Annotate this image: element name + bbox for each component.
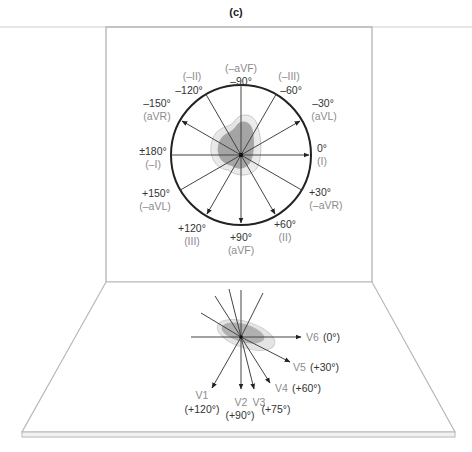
lead-v2-name: V2	[235, 396, 248, 408]
lead-v6-name: V6	[306, 331, 319, 343]
lead-label-m60: (–III)	[278, 70, 300, 82]
angle-label-p30: +30°	[309, 186, 331, 198]
angle-label-p120: +120°	[178, 222, 206, 234]
lead-v4-name: V4	[275, 382, 288, 394]
lead-label-m30: (aVL)	[311, 110, 337, 122]
figure-canvas: (–aVF) –90° (–III) –60° (–II) –120° –30°…	[0, 0, 472, 452]
lead-v4-angle: (+60°)	[292, 382, 321, 394]
angle-label-m120: –120°	[175, 84, 203, 96]
lead-v1-angle: (+120°)	[185, 403, 220, 415]
lead-v5-name: V5	[293, 361, 306, 373]
lead-label-m150: (aVR)	[143, 110, 170, 122]
angle-label-p90: +90°	[230, 231, 252, 243]
lead-v5-angle: (+30°)	[310, 361, 339, 373]
lead-label-m120: (–II)	[183, 70, 202, 82]
angle-label-m30: –30°	[312, 97, 334, 109]
lead-v2-angle: (+90°)	[225, 409, 254, 421]
angle-label-p150: +150°	[142, 187, 170, 199]
angle-label-p0: 0°	[317, 142, 327, 154]
angle-label-m150: –150°	[143, 97, 171, 109]
angle-label-p60: +60°	[274, 218, 296, 230]
angle-label-m60: –60°	[280, 84, 302, 96]
lead-label-p120: (III)	[184, 235, 200, 247]
lead-label-p150: (–aVL)	[139, 200, 171, 212]
origin-dot	[239, 153, 243, 157]
lead-label-p90: (aVF)	[228, 244, 254, 256]
lead-v1-name: V1	[196, 389, 209, 401]
floor-origin-dot	[239, 335, 243, 339]
lead-label-p0: (I)	[317, 155, 327, 167]
lead-v3-angle: (+75°)	[261, 403, 290, 415]
frontal-qrs-loop	[211, 115, 261, 175]
lead-v6-angle: (0°)	[323, 331, 340, 343]
lead-label-p30: (–aVR)	[309, 199, 342, 211]
angle-label-p180: ±180°	[139, 145, 166, 157]
lead-label-p180: (–I)	[145, 158, 161, 170]
ecg-axis-figure: (c)	[0, 0, 472, 452]
angle-label-m90: –90°	[230, 75, 252, 87]
lead-label-p60: (II)	[279, 231, 292, 243]
lead-label-m90: (–aVF)	[225, 62, 257, 74]
